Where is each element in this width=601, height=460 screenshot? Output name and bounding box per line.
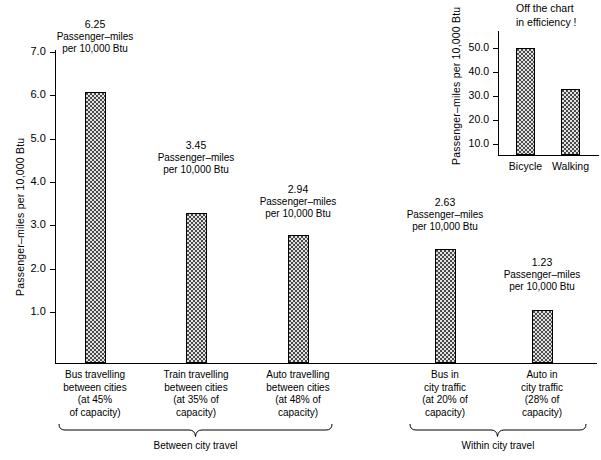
inset-x-axis-line [498,155,599,156]
bar-auto-city-traffic [532,310,553,363]
inset-y-tick-label-30: 30.0 [449,90,489,101]
main-y-tick-1 [50,312,56,313]
main-y-tick-3 [50,225,56,226]
group-bracket-between-city [58,423,333,439]
category-label-5-line-1: Auto in [482,369,601,382]
inset-y-tick-label-10: 10.0 [449,138,489,149]
inset-y-tick-10 [493,144,499,145]
bar-unit-3b: per 10,000 Btu [238,208,358,221]
category-label-3-line-2: between cities [238,382,358,395]
main-y-tick-label-2: 2.0 [6,263,46,274]
inset-category-walking: Walking [540,160,601,172]
main-x-axis-line [55,363,597,364]
inset-note: Off the chart in efficiency ! [516,2,577,29]
category-label-3-line-4: capacity) [238,407,358,420]
bar-value-4: 2.63 [385,196,505,209]
bar-unit-5a: Passenger–miles [482,269,601,282]
bar-bus-city-traffic [435,249,456,363]
bar-unit-3a: Passenger–miles [238,196,358,209]
category-label-3: Auto travelling between cities (at 48% o… [238,369,358,419]
chart-figure: Passenger–miles per 10,000 Btu 7.0 6.0 5… [0,0,601,460]
bar-train-between-cities [186,213,207,363]
bar-unit-4b: per 10,000 Btu [385,221,505,234]
inset-bar-walking [561,89,580,155]
bracket-shape-1 [58,423,333,439]
bar-value-5: 1.23 [482,256,601,269]
inset-y-tick-label-50: 50.0 [449,42,489,53]
main-y-tick-2 [50,269,56,270]
category-label-5-line-4: capacity) [482,407,601,420]
category-label-5-line-3: (28% of [482,394,601,407]
category-label-5-line-2: city traffic [482,382,601,395]
inset-y-tick-30 [493,96,499,97]
inset-y-tick-20 [493,120,499,121]
bar-annotation-4: 2.63 Passenger–miles per 10,000 Btu [385,196,505,234]
bar-annotation-5: 1.23 Passenger–miles per 10,000 Btu [482,256,601,294]
inset-y-axis-line [498,31,499,155]
bar-unit-4a: Passenger–miles [385,209,505,222]
inset-note-line-2: in efficiency ! [516,16,577,30]
group-label-between-city: Between city travel [58,440,333,452]
group-label-within-city: Within city travel [409,440,587,452]
inset-y-tick-label-20: 20.0 [449,114,489,125]
bar-auto-between-cities [288,235,309,363]
inset-bar-bicycle [516,48,535,155]
main-y-tick-label-1: 1.0 [6,306,46,317]
inset-y-tick-40 [493,72,499,73]
bracket-shape-2 [409,423,587,439]
category-label-3-line-1: Auto travelling [238,369,358,382]
inset-bar-chart: Off the chart in efficiency ! Passenger–… [0,0,601,190]
main-y-tick-label-3: 3.0 [6,219,46,230]
category-label-3-line-3: (at 48% of [238,394,358,407]
inset-y-tick-50 [493,48,499,49]
bar-unit-5b: per 10,000 Btu [482,281,601,294]
inset-note-line-1: Off the chart [516,2,577,16]
group-bracket-within-city [409,423,587,439]
inset-y-tick-label-40: 40.0 [449,66,489,77]
category-label-5: Auto in city traffic (28% of capacity) [482,369,601,419]
